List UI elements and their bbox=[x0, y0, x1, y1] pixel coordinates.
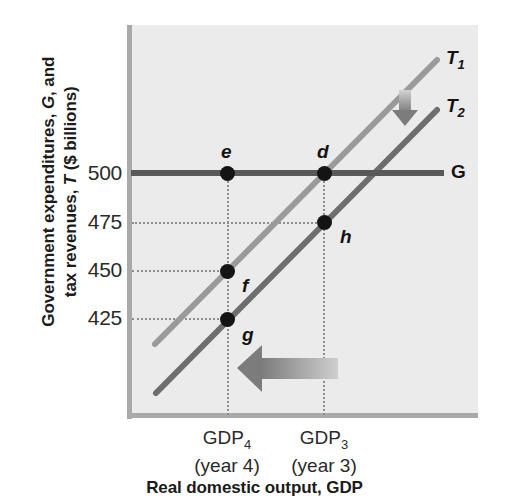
curve-t2 bbox=[156, 110, 437, 393]
curve-label-t2: T2 bbox=[446, 95, 465, 120]
data-point-d bbox=[317, 166, 332, 181]
data-point-label-h: h bbox=[340, 226, 352, 248]
curve-label-g: G bbox=[451, 161, 466, 183]
x-tick-gdp3-sub: 3 bbox=[341, 437, 348, 452]
x-tick-label-gdp3: GDP3 bbox=[300, 427, 348, 448]
x-tick-label-gdp4: GDP4 bbox=[203, 427, 251, 448]
x-tick-gdp3-base: GDP bbox=[300, 427, 341, 448]
x-tick-group-gdp3: GDP3 (year 3) bbox=[249, 425, 399, 479]
data-point-label-e: e bbox=[221, 141, 232, 163]
curve-label-t2-base: T bbox=[446, 95, 458, 116]
curve-t1 bbox=[155, 60, 437, 344]
data-point-label-f: f bbox=[242, 275, 248, 297]
y-tick-label-475: 475 bbox=[58, 210, 122, 234]
x-axis-title: Real domestic output, GDP bbox=[0, 478, 509, 498]
data-point-f bbox=[220, 264, 235, 279]
x-tick-gdp4-base: GDP bbox=[203, 427, 244, 448]
left-arrow-icon bbox=[237, 345, 338, 392]
y-tick-label-500: 500 bbox=[58, 161, 122, 185]
curve-label-t1-sub: 1 bbox=[458, 57, 465, 72]
data-point-label-d: d bbox=[317, 141, 329, 163]
data-point-e bbox=[220, 166, 235, 181]
data-point-h bbox=[317, 215, 332, 230]
curve-label-t1: T1 bbox=[446, 47, 465, 72]
y-tick-label-425: 425 bbox=[58, 306, 122, 330]
data-point-g bbox=[220, 312, 235, 327]
y-tick-label-450: 450 bbox=[58, 258, 122, 282]
x-tick-gdp3-year: (year 3) bbox=[249, 453, 399, 479]
data-point-label-g: g bbox=[242, 324, 254, 346]
down-arrow-icon bbox=[392, 90, 418, 126]
chart-figure: Government expenditures, G, and tax reve… bbox=[0, 0, 509, 503]
curve-label-t1-base: T bbox=[446, 47, 458, 68]
curve-label-t2-sub: 2 bbox=[458, 105, 465, 120]
